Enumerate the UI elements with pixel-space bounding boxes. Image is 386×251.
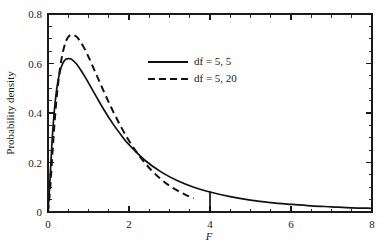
x-tick-label: 8 (369, 218, 375, 230)
x-tick-label: 0 (45, 218, 51, 230)
y-tick-label: 0.6 (28, 58, 42, 70)
f-distribution-chart-figure: 0246800.20.40.60.8 df = 5, 5df = 5, 20 F… (0, 0, 386, 251)
plot-frame (48, 14, 372, 212)
x-tick-label: 6 (288, 218, 294, 230)
ticks-group (48, 14, 372, 212)
chart-legend: df = 5, 5df = 5, 20 (148, 55, 237, 84)
x-axis-title: F (205, 230, 213, 242)
legend-label-2: df = 5, 20 (194, 72, 237, 84)
axes-group (48, 14, 372, 212)
data-curve-2 (48, 34, 194, 212)
y-tick-label: 0.2 (28, 157, 42, 169)
legend-label-1: df = 5, 5 (194, 55, 232, 67)
chart-plot-area: 0246800.20.40.60.8 df = 5, 5df = 5, 20 F… (0, 0, 386, 251)
y-axis-title: Probability density (4, 71, 16, 155)
x-tick-label: 4 (207, 218, 213, 230)
y-tick-label: 0 (37, 206, 43, 218)
y-tick-label: 0.4 (28, 107, 42, 119)
y-tick-label: 0.8 (28, 8, 42, 20)
tick-labels-group: 0246800.20.40.60.8 (28, 8, 375, 230)
x-tick-label: 2 (126, 218, 132, 230)
